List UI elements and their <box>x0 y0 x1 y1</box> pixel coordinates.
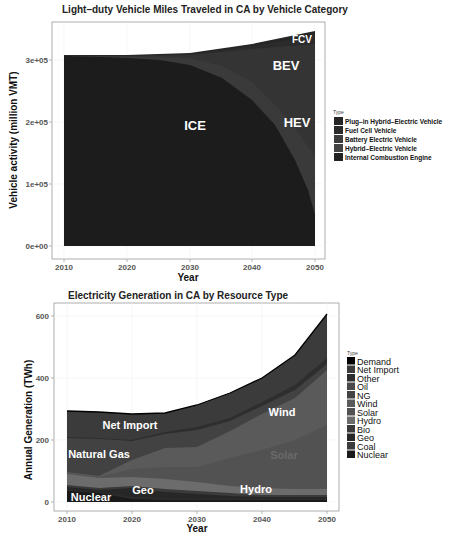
label-solar: Solar <box>270 449 298 461</box>
label-net-import: Net Import <box>103 419 158 431</box>
svg-text:Type: Type <box>333 109 344 115</box>
svg-text:2050: 2050 <box>318 515 336 524</box>
vmt-x-axis-label: Year <box>177 272 198 283</box>
vmt-y-axis-label: Vehicle activity (million VMT) <box>8 71 19 208</box>
vmt-legend: Type Plug–in Hybrid–Electric Vehicle Fue… <box>333 109 443 162</box>
svg-text:Internal Combustion Engine: Internal Combustion Engine <box>345 154 432 162</box>
electricity-chart-title: Electricity Generation in CA by Resource… <box>68 290 289 301</box>
label-hev: HEV <box>284 115 311 130</box>
svg-text:Nuclear: Nuclear <box>357 450 388 460</box>
label-ice: ICE <box>184 118 206 133</box>
svg-text:2020: 2020 <box>118 263 136 272</box>
svg-text:2010: 2010 <box>58 515 76 524</box>
vmt-x-axis: 2010 2020 2030 2040 2050 Year <box>55 259 324 283</box>
svg-text:0: 0 <box>45 498 50 507</box>
vmt-chart-title: Light–duty Vehicle Miles Traveled in CA … <box>62 4 348 15</box>
figure: Light–duty Vehicle Miles Traveled in CA … <box>0 0 449 544</box>
label-hydro: Hydro <box>240 483 272 495</box>
electricity-y-axis-label: Annual Generation (TWh) <box>23 360 34 481</box>
svg-text:Battery Electric Vehicle: Battery Electric Vehicle <box>345 136 417 144</box>
svg-text:Fuel Cell Vehicle: Fuel Cell Vehicle <box>345 127 397 134</box>
svg-text:2010: 2010 <box>55 263 73 272</box>
svg-text:Plug–in Hybrid–Electric Vehicl: Plug–in Hybrid–Electric Vehicle <box>345 118 443 126</box>
svg-text:2040: 2040 <box>243 263 261 272</box>
label-bev: BEV <box>273 58 300 73</box>
electricity-x-axis: 2010 2020 2030 2040 2050 Year <box>58 511 336 534</box>
electricity-chart: Electricity Generation in CA by Resource… <box>23 290 400 534</box>
svg-text:Type: Type <box>347 350 358 356</box>
electricity-legend: Type Demand Net Import Other Oil NG Wind… <box>347 350 400 460</box>
svg-text:200: 200 <box>36 436 50 445</box>
svg-text:400: 400 <box>36 374 50 383</box>
label-nuclear: Nuclear <box>71 491 112 503</box>
label-natural-gas: Natural Gas <box>68 448 130 460</box>
svg-text:600: 600 <box>36 312 50 321</box>
label-fcv: FCV <box>292 34 312 45</box>
svg-text:3e+05: 3e+05 <box>26 56 49 65</box>
svg-text:2e+05: 2e+05 <box>26 118 49 127</box>
svg-text:2030: 2030 <box>181 263 199 272</box>
label-geo: Geo <box>132 484 154 496</box>
svg-text:2040: 2040 <box>253 515 271 524</box>
svg-text:1e+05: 1e+05 <box>26 180 49 189</box>
vmt-chart: Light–duty Vehicle Miles Traveled in CA … <box>8 4 443 283</box>
svg-text:Hybrid–Electric Vehicle: Hybrid–Electric Vehicle <box>345 145 417 153</box>
svg-text:0e+00: 0e+00 <box>26 242 49 251</box>
svg-text:2050: 2050 <box>306 263 324 272</box>
svg-text:2020: 2020 <box>123 515 141 524</box>
electricity-y-axis: 600 400 200 0 Annual Generation (TWh) <box>23 312 54 507</box>
vmt-y-axis: 3e+05 2e+05 1e+05 0e+00 Vehicle activity… <box>8 56 52 251</box>
label-wind: Wind <box>269 406 296 418</box>
electricity-x-axis-label: Year <box>186 523 207 534</box>
